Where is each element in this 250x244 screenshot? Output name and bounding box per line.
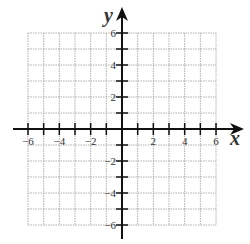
y-tick-label: −4	[104, 187, 116, 199]
y-tick-label: −6	[104, 219, 116, 231]
y-tick-label: −2	[104, 155, 116, 167]
y-tick-label: 2	[111, 91, 117, 103]
axes	[13, 7, 244, 239]
x-tick-label: −6	[22, 135, 34, 147]
y-tick-label: 4	[111, 59, 117, 71]
coordinate-plane: −6−4−2246642−2−4−6 x y	[0, 0, 250, 244]
x-tick-label: 4	[182, 135, 188, 147]
x-tick-label: 2	[151, 135, 157, 147]
x-axis-label: x	[229, 127, 240, 149]
y-tick-label: 6	[111, 27, 117, 39]
x-tick-label: 6	[213, 135, 219, 147]
x-tick-label: −4	[53, 135, 65, 147]
x-tick-label: −2	[85, 135, 97, 147]
y-axis-label: y	[102, 4, 113, 27]
